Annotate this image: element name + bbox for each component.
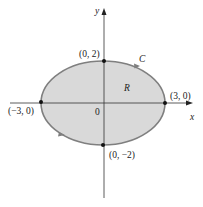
ellipse-diagram: y x 0 C R (0, 2) (3, 0) (−3, 0) (0, −2) — [0, 0, 203, 207]
x-axis-label: x — [189, 112, 195, 122]
y-axis-arrow-icon — [102, 8, 107, 15]
point-label-left: (−3, 0) — [8, 106, 34, 117]
origin-label: 0 — [95, 107, 100, 117]
point-bottom — [101, 143, 105, 147]
curve-label: C — [139, 54, 146, 64]
diagram-canvas: y x 0 C R (0, 2) (3, 0) (−3, 0) (0, −2) — [0, 0, 203, 207]
x-axis-arrow-icon — [186, 101, 193, 106]
point-right — [163, 101, 167, 105]
y-axis-label: y — [94, 6, 100, 16]
point-label-top: (0, 2) — [79, 49, 100, 60]
region-label: R — [123, 83, 130, 93]
point-label-right: (3, 0) — [170, 91, 191, 102]
point-left — [39, 100, 43, 104]
point-top — [102, 59, 106, 63]
point-label-bottom: (0, −2) — [109, 150, 135, 161]
